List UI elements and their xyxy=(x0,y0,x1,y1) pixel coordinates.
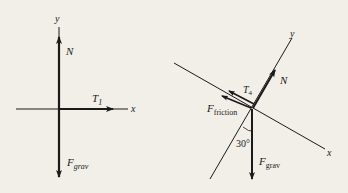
right-gravity-label: Fgrav xyxy=(258,155,280,170)
left-normal-label: N xyxy=(65,45,74,57)
left-tension-label: T1 xyxy=(92,92,102,107)
right-x-axis-label: x xyxy=(326,147,332,158)
right-normal-label: N xyxy=(279,74,288,86)
left-x-axis-label: x xyxy=(130,103,136,114)
right-normal-force-arrow xyxy=(253,70,275,108)
right-y-axis-label: y xyxy=(289,28,295,39)
free-body-diagrams: y x N T1 Fgrav y x N T4 Ffriction 30° Fg… xyxy=(0,0,348,193)
right-friction-arrow xyxy=(222,96,251,108)
right-tension-label: T4 xyxy=(243,84,253,97)
right-friction-label: Ffriction xyxy=(206,102,237,117)
left-gravity-label: Fgrav xyxy=(66,156,89,171)
left-diagram: y x N T1 Fgrav xyxy=(16,13,136,177)
incline-x-axis xyxy=(174,63,325,149)
left-y-axis-label: y xyxy=(54,13,60,24)
right-diagram: y x N T4 Ffriction 30° Fgrav xyxy=(174,28,332,179)
angle-label: 30° xyxy=(236,138,250,149)
